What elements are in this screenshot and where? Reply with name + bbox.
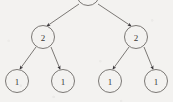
node-leaf-3-label: 1 bbox=[108, 77, 113, 87]
node-right-two-label: 2 bbox=[134, 33, 139, 43]
node-leaf-1-label: 1 bbox=[15, 77, 20, 87]
node-root-circle bbox=[77, 0, 100, 6]
tree-nodes: 2 2 1 1 1 1 bbox=[6, 0, 168, 93]
node-leaf-1: 1 bbox=[6, 70, 29, 93]
edge-right-two-to-leaf-3 bbox=[113, 47, 129, 69]
tree-diagram-canvas: 2 2 1 1 1 1 bbox=[0, 0, 173, 102]
edge-left-two-to-leaf-1 bbox=[20, 47, 36, 69]
node-root bbox=[77, 0, 100, 6]
node-left-two: 2 bbox=[32, 26, 55, 49]
node-leaf-2: 1 bbox=[52, 70, 75, 93]
node-leaf-4: 1 bbox=[145, 70, 168, 93]
tree-diagram-figure: 2 2 1 1 1 1 bbox=[0, 0, 173, 102]
edge-root-to-left-two bbox=[47, 4, 79, 26]
node-leaf-2-label: 1 bbox=[61, 77, 66, 87]
edge-left-two-to-leaf-2 bbox=[51, 47, 60, 69]
node-left-two-label: 2 bbox=[41, 33, 46, 43]
edge-right-two-to-leaf-4 bbox=[144, 47, 153, 69]
edge-root-to-right-two bbox=[98, 4, 131, 26]
node-right-two: 2 bbox=[125, 26, 148, 49]
node-leaf-3: 1 bbox=[99, 70, 122, 93]
node-leaf-4-label: 1 bbox=[154, 77, 159, 87]
